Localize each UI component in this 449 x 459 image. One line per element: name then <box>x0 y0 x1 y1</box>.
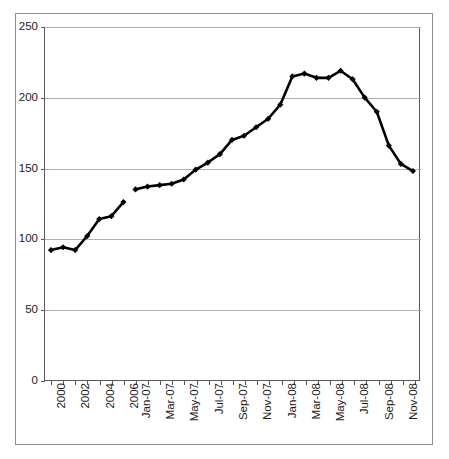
y-tick-label: 100 <box>19 233 38 244</box>
x-tick-label: Jul-08 <box>358 383 370 414</box>
data-point-marker <box>132 186 138 192</box>
x-tick-label: May-07 <box>188 383 200 421</box>
y-tick-label: 50 <box>25 304 38 315</box>
data-point-marker <box>144 183 150 189</box>
x-axis-tick-labels: 2000200220042006Jan-07Mar-07May-07Jul-07… <box>44 383 420 445</box>
x-tick-label: Sep-08 <box>383 383 395 420</box>
data-point-marker <box>60 244 66 250</box>
x-tick-label: May-08 <box>334 383 346 421</box>
y-tick-label: 250 <box>19 21 38 32</box>
x-tick-label: Mar-07 <box>164 383 176 419</box>
y-tick-label: 200 <box>19 92 38 103</box>
x-tick-label: Nov-08 <box>407 383 419 420</box>
line-series-layer <box>45 27 419 380</box>
series-line <box>135 71 412 190</box>
data-point-marker <box>157 182 163 188</box>
plot-area <box>44 27 420 381</box>
x-tick-label: Jul-07 <box>213 383 225 414</box>
x-tick-label: Nov-07 <box>261 383 273 420</box>
x-tick-label: 2002 <box>79 383 91 409</box>
x-tick-label: Jan-07 <box>140 383 152 418</box>
y-tick-mark <box>41 381 45 382</box>
data-point-marker <box>313 75 319 81</box>
x-tick-label: 2000 <box>55 383 67 409</box>
y-tick-label: 0 <box>32 375 38 386</box>
y-axis-tick-labels: 050100150200250 <box>0 27 38 381</box>
chart-figure: 050100150200250 2000200220042006Jan-07Ma… <box>0 0 449 459</box>
data-point-marker <box>301 71 307 77</box>
x-tick-label: 2004 <box>104 383 116 409</box>
y-tick-label: 150 <box>19 163 38 174</box>
x-tick-label: Jan-08 <box>286 383 298 418</box>
x-tick-label: 2006 <box>128 383 140 409</box>
series-line <box>51 202 123 250</box>
data-point-marker <box>48 247 54 253</box>
x-tick-label: Mar-08 <box>310 383 322 419</box>
x-tick-label: Sep-07 <box>237 383 249 420</box>
data-point-marker <box>169 181 175 187</box>
